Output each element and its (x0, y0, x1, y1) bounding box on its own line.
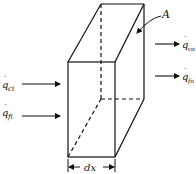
svg-text:fi: fi (7, 113, 13, 121)
area-text: A (161, 8, 170, 21)
svg-text:ci: ci (8, 85, 14, 93)
svg-text:·: · (4, 100, 7, 109)
svg-text:co: co (188, 45, 195, 52)
control-volume-diagram: A q · ci q · fi q · co q · fo dx (0, 0, 196, 174)
box-element (68, 4, 144, 157)
area-pointer-arrow (137, 16, 161, 33)
area-label: A (137, 8, 170, 33)
input-ci: q · ci (2, 72, 60, 93)
output-co: q · co (155, 32, 195, 52)
output-fo: q · fo (155, 64, 194, 85)
svg-text:·: · (4, 72, 7, 81)
input-fi: q · fi (2, 100, 60, 121)
svg-text:·: · (184, 64, 187, 73)
dx-label: dx (84, 162, 96, 173)
svg-text:·: · (184, 32, 187, 41)
svg-text:fo: fo (187, 77, 194, 85)
front-face (68, 62, 115, 157)
